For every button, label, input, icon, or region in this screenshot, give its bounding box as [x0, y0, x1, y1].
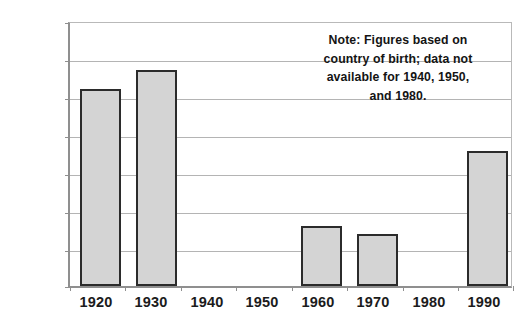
chart-note-line-3: available for 1940, 1950, — [292, 68, 504, 87]
bar-1930 — [136, 70, 177, 286]
bar-1990 — [467, 151, 508, 286]
chart-note-line-2: country of birth; data not — [292, 50, 504, 69]
y-tick-mark-30000 — [65, 175, 70, 176]
x-axis-tick-label-1970: 1970 — [356, 294, 389, 310]
y-tick-mark-50000 — [65, 99, 70, 100]
x-tick-mark-1 — [125, 286, 126, 291]
x-axis-tick-label-1920: 1920 — [79, 294, 112, 310]
chart-note-line-1: Note: Figures based on — [292, 31, 504, 50]
x-tick-mark-5 — [347, 286, 348, 291]
x-tick-mark-7 — [458, 286, 459, 291]
bar-1970 — [357, 234, 398, 286]
chart-note: Note: Figures based on country of birth;… — [292, 31, 504, 106]
y-tick-mark-20000 — [65, 213, 70, 214]
x-axis-tick-label-1940: 1940 — [190, 294, 223, 310]
x-axis-tick-label-1990: 1990 — [467, 294, 500, 310]
x-tick-mark-3 — [236, 286, 237, 291]
y-tick-mark-10000 — [65, 251, 70, 252]
x-axis-tick-label-1980: 1980 — [412, 294, 445, 310]
bar-chart-figure: 70,000 60,000 50,000 40,000 30,000 20,00… — [0, 0, 526, 328]
y-tick-mark-40000 — [65, 137, 70, 138]
bar-1960 — [301, 226, 342, 286]
x-tick-mark-0 — [70, 286, 71, 291]
x-axis-tick-label-1930: 1930 — [134, 294, 167, 310]
x-tick-mark-2 — [181, 286, 182, 291]
x-tick-mark-6 — [403, 286, 404, 291]
chart-note-line-4: and 1980. — [292, 87, 504, 106]
x-tick-mark-4 — [292, 286, 293, 291]
y-tick-mark-70000 — [65, 23, 70, 24]
x-axis-tick-label-1950: 1950 — [245, 294, 278, 310]
x-axis-tick-label-1960: 1960 — [301, 294, 334, 310]
bar-1920 — [80, 89, 121, 286]
x-tick-mark-8 — [513, 286, 514, 291]
y-tick-mark-60000 — [65, 61, 70, 62]
